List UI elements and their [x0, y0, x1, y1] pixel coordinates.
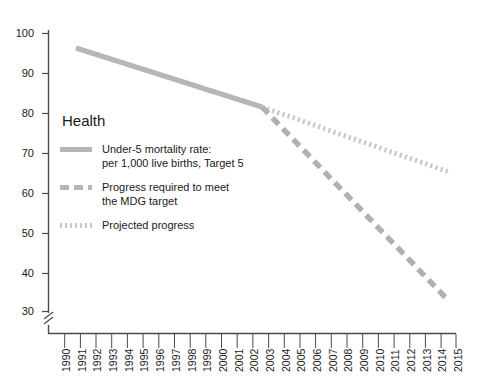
legend-item-label-line2: per 1,000 live births, Target 5	[102, 157, 244, 171]
series-line-mdg-required	[262, 107, 447, 299]
y-tick-label: 50	[8, 227, 34, 239]
x-tick-label: 2003	[264, 349, 276, 372]
legend-item-label-line1: Progress required to meet	[102, 181, 229, 195]
x-tick-label: 2011	[389, 349, 401, 372]
y-tick-label: 100	[8, 27, 34, 39]
y-axis-break-icon	[44, 312, 53, 333]
legend-swatch-solid-line-icon	[60, 147, 92, 152]
x-tick-label: 1991	[76, 349, 88, 372]
y-tick-label: 40	[8, 267, 34, 279]
x-tick-label: 2001	[233, 349, 245, 372]
x-tick-label: 2004	[280, 349, 292, 372]
legend-item-label-line2: the MDG target	[102, 195, 229, 209]
x-tick-label: 2006	[311, 349, 323, 372]
x-tick-label: 1993	[107, 349, 119, 372]
y-tick-label: 60	[8, 187, 34, 199]
chart-legend: Health Under-5 mortality rate: per 1,000…	[60, 112, 270, 244]
x-tick-label: 1994	[123, 349, 135, 372]
legend-swatch-dotted-line-icon	[60, 223, 92, 228]
legend-item-projected-progress: Projected progress	[60, 219, 270, 233]
y-tick-label: 30	[8, 305, 34, 317]
y-tick-label: 90	[8, 67, 34, 79]
x-tick-label: 2012	[405, 349, 417, 372]
x-tick-label: 1996	[154, 349, 166, 372]
y-axis-ticks	[42, 34, 48, 312]
legend-swatch-dashed-line-icon	[60, 185, 92, 190]
legend-item-label-line1: Under-5 mortality rate:	[102, 143, 244, 157]
series-line-under5-mortality	[76, 48, 262, 107]
x-tick-label: 2000	[217, 349, 229, 372]
legend-item-mdg-required: Progress required to meet the MDG target	[60, 181, 270, 208]
legend-title: Health	[62, 112, 270, 129]
series-line-projected-progress	[262, 107, 449, 172]
x-tick-label: 1992	[91, 349, 103, 372]
x-tick-label: 2002	[248, 349, 260, 372]
x-tick-label: 2008	[342, 349, 354, 372]
legend-item-label-line1: Projected progress	[102, 219, 194, 233]
y-tick-label: 70	[8, 147, 34, 159]
x-tick-label: 1998	[186, 349, 198, 372]
x-tick-label: 2010	[374, 349, 386, 372]
x-tick-label: 2007	[327, 349, 339, 372]
x-tick-label: 2014	[436, 349, 448, 372]
x-tick-label: 1999	[201, 349, 213, 372]
x-tick-label: 2005	[295, 349, 307, 372]
x-tick-label: 2015	[452, 349, 464, 372]
x-axis-ticks	[65, 334, 456, 348]
y-tick-label: 80	[8, 107, 34, 119]
x-tick-label: 1995	[138, 349, 150, 372]
legend-item-under5-mortality: Under-5 mortality rate: per 1,000 live b…	[60, 143, 270, 170]
chart-container: 100 90 80 70 60 50 40 30 1990 1991 1992 …	[0, 0, 478, 380]
x-tick-label: 1997	[170, 349, 182, 372]
x-tick-label: 2009	[358, 349, 370, 372]
x-tick-label: 2013	[421, 349, 433, 372]
x-tick-label: 1990	[60, 349, 72, 372]
